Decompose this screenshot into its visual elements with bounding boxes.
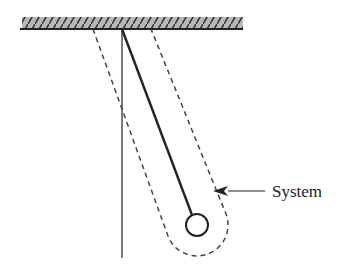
ceiling-support bbox=[20, 17, 243, 29]
pendulum-rod bbox=[122, 29, 192, 215]
system-label: System bbox=[272, 182, 322, 201]
pendulum-bob bbox=[186, 214, 208, 236]
label-arrow bbox=[213, 186, 265, 196]
pendulum-diagram: System bbox=[0, 0, 351, 275]
